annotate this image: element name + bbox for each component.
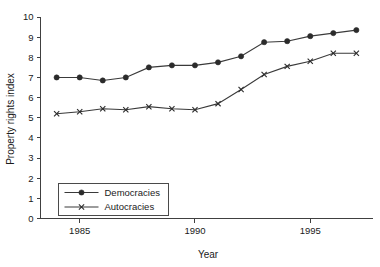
y-axis: 012345678910 <box>23 11 41 224</box>
chart-container: 012345678910 198519901995 DemocraciesAut… <box>0 0 380 267</box>
data-series-democracies <box>54 27 359 83</box>
x-axis-tick-label: 1995 <box>300 225 321 236</box>
x-axis-tick-label: 1990 <box>184 225 205 236</box>
data-point-marker-circle <box>308 34 313 39</box>
data-point-marker-circle <box>215 60 220 65</box>
data-point-marker-circle <box>123 75 128 80</box>
y-axis-tick-label: 8 <box>28 52 33 63</box>
legend-item-label: Democracies <box>105 187 161 198</box>
y-axis-tick-label: 10 <box>23 11 34 22</box>
y-axis-tick-label: 4 <box>28 132 33 143</box>
y-axis-tick-label: 5 <box>28 112 33 123</box>
y-axis-tick-label: 3 <box>28 152 33 163</box>
line-chart: 012345678910 198519901995 DemocraciesAut… <box>0 0 380 267</box>
data-point-marker-x <box>262 72 267 77</box>
data-point-marker-circle <box>354 27 359 32</box>
y-axis-tick-label: 6 <box>28 92 33 103</box>
x-axis-title: Year <box>198 249 219 260</box>
y-axis-tick-label: 9 <box>28 32 33 43</box>
legend-item-label: Autocracies <box>105 201 155 212</box>
x-axis: 198519901995 <box>41 219 373 236</box>
data-point-marker-circle <box>77 75 82 80</box>
data-point-marker-circle <box>54 75 59 80</box>
data-point-marker-circle <box>262 40 267 45</box>
data-series-group <box>54 27 359 116</box>
data-point-marker-circle <box>238 54 243 59</box>
y-axis-title: Property rights index <box>5 73 16 165</box>
y-axis-tick-label: 7 <box>28 72 33 83</box>
data-point-marker-circle <box>331 31 336 36</box>
data-point-marker-circle <box>169 63 174 68</box>
y-axis-tick-label: 1 <box>28 193 33 204</box>
y-axis-tick-label: 0 <box>28 213 33 224</box>
x-axis-tick-label: 1985 <box>69 225 90 236</box>
data-point-marker-circle <box>192 63 197 68</box>
data-point-marker-circle <box>100 78 105 83</box>
data-point-marker-x <box>238 87 243 92</box>
y-axis-tick-label: 2 <box>28 173 33 184</box>
chart-legend: DemocraciesAutocracies <box>59 184 169 216</box>
data-point-marker-circle <box>285 39 290 44</box>
data-point-marker-circle <box>79 190 84 195</box>
data-point-marker-circle <box>146 65 151 70</box>
data-series-autocracies <box>54 51 359 117</box>
